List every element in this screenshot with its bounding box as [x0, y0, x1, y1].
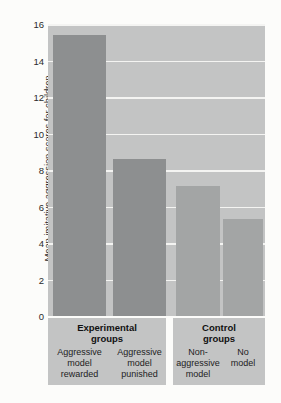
bar: [223, 219, 263, 316]
y-axis-tick-labels: 1614121086420: [22, 24, 44, 316]
y-axis-tick-label: 0: [22, 311, 44, 322]
bar: [113, 159, 166, 316]
category-label: Nomodel: [217, 347, 269, 369]
bar: [176, 186, 220, 316]
bar: [53, 35, 106, 316]
category-label-line: model: [217, 358, 269, 369]
category-label-line: model: [170, 369, 226, 380]
bar-chart-figure: Mean imitative aggression scores for chi…: [0, 0, 281, 403]
category-label-line: Aggressive: [47, 347, 112, 358]
category-label-line: rewarded: [47, 369, 112, 380]
y-axis-tick-label: 2: [22, 274, 44, 285]
category-label-line: Aggressive: [107, 347, 172, 358]
y-axis-tick-label: 16: [22, 19, 44, 30]
plot-area: [48, 24, 265, 316]
bars-container: [48, 24, 265, 316]
category-label-line: model: [47, 358, 112, 369]
group-title-line: Control: [173, 322, 265, 333]
category-label-band: ExperimentalgroupsAggressivemodelrewarde…: [48, 318, 265, 385]
y-axis-tick-label: 6: [22, 201, 44, 212]
y-axis-tick-label: 8: [22, 165, 44, 176]
category-label: Aggressivemodelpunished: [107, 347, 172, 380]
group-title-line: Experimental: [48, 322, 166, 333]
group-title: Controlgroups: [173, 322, 265, 344]
group-title-line: groups: [48, 333, 166, 344]
group-title-line: groups: [173, 333, 265, 344]
category-label-line: model: [107, 358, 172, 369]
y-axis-tick-label: 10: [22, 128, 44, 139]
y-axis-tick-label: 12: [22, 92, 44, 103]
group-title: Experimentalgroups: [48, 322, 166, 344]
y-axis-tick-label: 14: [22, 55, 44, 66]
y-axis-tick-label: 4: [22, 238, 44, 249]
category-label-line: punished: [107, 369, 172, 380]
category-label-line: No: [217, 347, 269, 358]
category-label: Aggressivemodelrewarded: [47, 347, 112, 380]
